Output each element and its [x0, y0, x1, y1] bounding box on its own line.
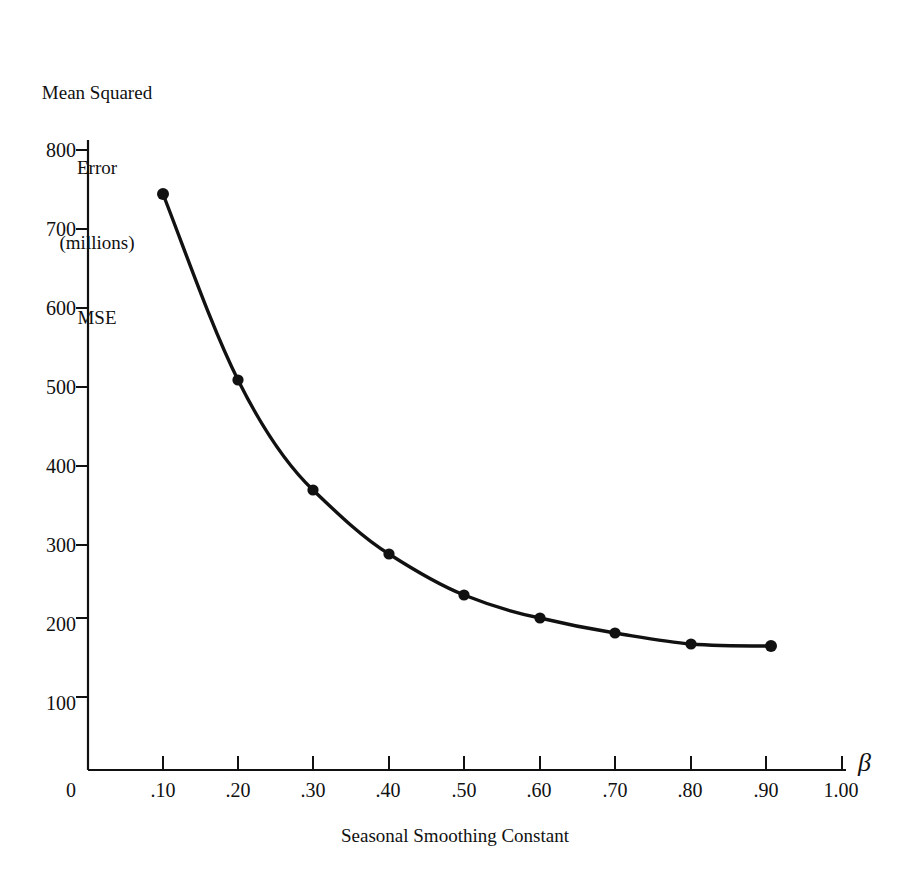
data-point — [232, 374, 243, 385]
data-point-markers — [157, 188, 777, 652]
data-point — [765, 640, 777, 652]
chart-figure: Mean Squared Error (millions) MSE 800 70… — [0, 0, 910, 881]
data-point — [685, 638, 696, 649]
data-point — [157, 188, 169, 200]
data-point — [609, 627, 620, 638]
data-point — [458, 589, 469, 600]
data-point — [534, 612, 545, 623]
y-axis-ticks — [76, 150, 88, 697]
data-point — [307, 484, 318, 495]
mse-curve — [163, 194, 771, 646]
plot-area — [0, 0, 910, 881]
data-point — [383, 548, 394, 559]
x-axis-ticks — [163, 756, 842, 770]
